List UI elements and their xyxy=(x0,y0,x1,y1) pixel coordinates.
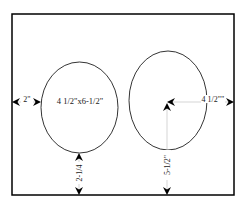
left-oval-size-label: 4 1/2"x6-1/2" xyxy=(57,96,103,106)
right-oval xyxy=(129,51,207,150)
left-oval xyxy=(41,62,118,153)
left-bottom-label: 2-1/4 xyxy=(75,165,84,182)
oval-layout-diagram: 4 1/2"x6-1/2" 2" 2-1/4 4 1/2"" 5-1/2" xyxy=(0,0,251,205)
outer-frame xyxy=(12,14,234,195)
right-vertical-label: 5-1/2" xyxy=(163,155,172,175)
left-margin-label: 2" xyxy=(23,95,30,104)
right-horizontal-label: 4 1/2"" xyxy=(202,95,225,104)
